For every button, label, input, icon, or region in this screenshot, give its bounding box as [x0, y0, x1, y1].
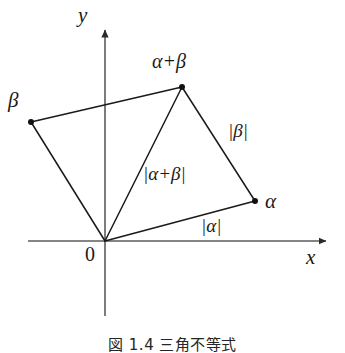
point-label-beta: β [8, 90, 18, 111]
origin-label: 0 [85, 244, 95, 264]
point-beta [28, 119, 34, 125]
figure-caption: 図 1.4 三角不等式 [0, 333, 345, 353]
point-label-alpha-plus-beta: α+β [152, 51, 186, 71]
x-axis-label: x [306, 247, 315, 268]
segment-label-abs-alpha: |α| [201, 216, 221, 235]
y-axis-label: y [78, 5, 87, 26]
vertex-dots-group [28, 84, 258, 204]
point-alpha [252, 198, 258, 204]
point-alpha-plus-beta [179, 84, 185, 90]
segment-beta-to-alpha-plus-beta [31, 87, 182, 122]
segment-label-abs-alpha-plus-beta: |α+β| [143, 164, 186, 183]
segment-label-abs-beta: |β| [228, 121, 248, 140]
segment-origin-alpha [105, 201, 255, 241]
figure-container: y x 0 β α α+β |β| |α+β| |α| 図 1.4 三角不等式 [0, 0, 345, 353]
segment-origin-beta [31, 122, 105, 241]
segment-alpha-to-alpha-plus-beta [182, 87, 255, 201]
point-label-alpha: α [265, 191, 276, 212]
